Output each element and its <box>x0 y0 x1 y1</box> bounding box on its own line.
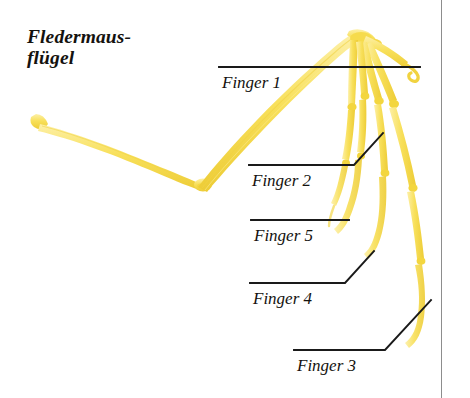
figure-page: Fledermaus- flügel Finger 1 Finger 2 Fin… <box>0 0 470 398</box>
callout-leader-lines <box>219 67 431 350</box>
page-border-rule <box>441 0 442 398</box>
forearm-bone <box>198 33 361 192</box>
callout-label-finger-4: Finger 4 <box>253 290 312 308</box>
callout-label-finger-1: Finger 1 <box>222 74 281 92</box>
leader-line-finger-4 <box>250 251 374 283</box>
callout-label-finger-5: Finger 5 <box>254 227 313 245</box>
humerus-bone <box>30 114 203 191</box>
callout-label-finger-3: Finger 3 <box>297 357 356 375</box>
callout-label-finger-2: Finger 2 <box>252 172 311 190</box>
figure-title: Fledermaus- flügel <box>27 26 207 68</box>
